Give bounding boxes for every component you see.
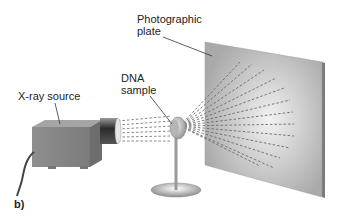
dna-sample-label-line1: DNA (121, 72, 156, 84)
xray-source (17, 118, 121, 196)
xray-source-label: X-ray source (18, 90, 80, 102)
dna-sample-label-line2: sample (121, 84, 156, 96)
photographic-plate-label-line2: plate (137, 25, 202, 37)
photographic-plate-label: Photographic plate (137, 13, 202, 37)
panel-label: b) (14, 198, 24, 210)
dna-sample-label: DNA sample (121, 72, 156, 96)
xray-beam (118, 116, 172, 141)
photographic-plate (205, 42, 325, 198)
photographic-plate-label-line1: Photographic (137, 13, 202, 25)
